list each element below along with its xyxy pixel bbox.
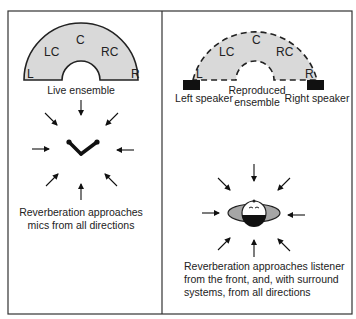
reproduced-ensemble-label-line-2: ensemble	[234, 96, 280, 108]
reproduced-label-r: R	[305, 67, 314, 81]
right-speaker-label: Right speaker	[285, 92, 350, 104]
right-caption-line-2: from the front, and, with surround	[184, 273, 339, 285]
live-ensemble-arc	[24, 23, 138, 80]
reproduced-label-l: L	[196, 67, 203, 81]
position-label-c: C	[76, 33, 85, 47]
position-label-r: R	[131, 67, 140, 81]
left-caption-line-1: Reverberation approaches	[19, 206, 143, 218]
position-label-lc: LC	[44, 45, 60, 59]
right-caption-line-1: Reverberation approaches listener	[184, 260, 345, 272]
reverb-arrows-icon	[32, 100, 134, 200]
reproduced-label-lc: LC	[219, 45, 235, 59]
right-caption-line-3: systems, from all directions	[184, 286, 311, 298]
position-label-l: L	[27, 67, 34, 81]
reproduced-label-rc: RC	[276, 45, 294, 59]
microphone-pair-icon	[66, 139, 99, 154]
reproduced-ensemble-label-line-1: Reproduced	[228, 84, 285, 96]
listener-icon	[228, 200, 280, 228]
left-speaker-label: Left speaker	[175, 92, 233, 104]
position-label-rc: RC	[101, 45, 119, 59]
right-panel: L LC C RC R Left speaker Right speaker R…	[175, 32, 350, 298]
reproduced-label-c: C	[252, 33, 261, 47]
left-panel: L LC C RC R Live ensemble Reverberation …	[19, 23, 143, 231]
right-speaker-icon	[307, 80, 324, 90]
left-speaker-icon	[183, 80, 200, 90]
live-ensemble-label: Live ensemble	[47, 84, 115, 96]
left-caption-line-2: mics from all directions	[28, 219, 135, 231]
